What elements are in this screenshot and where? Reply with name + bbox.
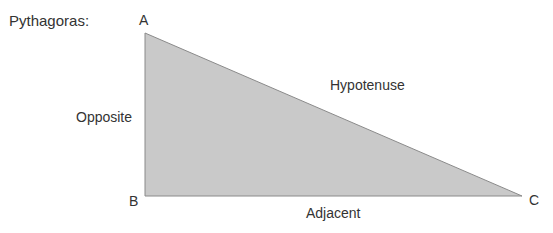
- opposite-side-label: Opposite: [76, 110, 132, 124]
- vertex-a-label: A: [139, 13, 148, 27]
- adjacent-side-label: Adjacent: [306, 206, 360, 220]
- vertex-b-label: B: [129, 194, 138, 208]
- diagram-title: Pythagoras:: [9, 13, 89, 28]
- vertex-c-label: C: [529, 193, 539, 207]
- hypotenuse-label: Hypotenuse: [330, 78, 405, 92]
- right-triangle: [145, 33, 522, 196]
